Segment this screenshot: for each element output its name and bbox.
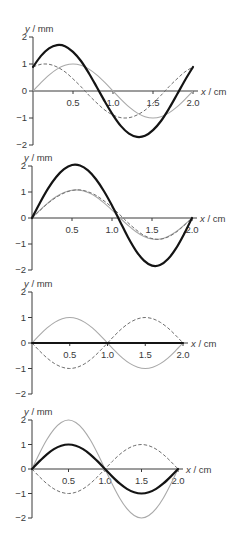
superposition-figure: 210−1−20.51.01.52.0y / mmx / cm 210−1−20…	[0, 0, 239, 540]
x-axis-label: x / cm	[190, 338, 216, 349]
x-axis-label: x / cm	[185, 464, 211, 475]
y-tick-label: −2	[16, 139, 27, 150]
graph-panel-1: 210−1−20.51.01.52.0y / mmx / cm	[16, 23, 226, 150]
x-axis-label: x / cm	[200, 86, 226, 97]
y-axis-label: y / mm	[24, 23, 54, 34]
x-tick-label: 1.0	[101, 349, 114, 360]
x-tick-label: 0.5	[63, 349, 76, 360]
y-tick-label: 0	[22, 85, 27, 96]
x-tick-label: 0.5	[62, 475, 75, 486]
graph-panel-2: 210−1−20.51.01.52.0y / mmx / cm	[15, 152, 225, 275]
y-tick-label: −2	[15, 264, 26, 275]
x-tick-label: 1.0	[105, 224, 118, 235]
x-tick-label: 1.0	[98, 475, 111, 486]
x-axis-label: x / cm	[199, 213, 225, 224]
x-tick-label: 1.5	[139, 349, 152, 360]
y-tick-label: 1	[21, 439, 26, 450]
x-tick-label: 2.0	[176, 349, 189, 360]
y-tick-label: 1	[21, 312, 26, 323]
y-tick-label: 0	[21, 212, 26, 223]
y-tick-label: −1	[15, 488, 26, 499]
y-tick-label: −2	[15, 388, 26, 399]
x-tick-label: 0.5	[65, 224, 78, 235]
y-axis-label: y / mm	[23, 278, 53, 289]
series-thick-line	[32, 165, 192, 266]
y-tick-label: 0	[21, 337, 26, 348]
y-axis-label: y / mm	[23, 152, 53, 163]
x-tick-label: 2.0	[186, 97, 199, 108]
y-tick-label: −2	[15, 512, 26, 523]
graph-panel-3: 210−1−20.51.01.52.0y / mmx / cm	[15, 278, 216, 399]
y-tick-label: 0	[21, 463, 26, 474]
y-tick-label: −1	[16, 112, 27, 123]
x-tick-label: 0.5	[66, 97, 79, 108]
y-tick-label: −1	[15, 238, 26, 249]
graph-panel-4: 210−1−20.51.01.52.0y / mmx / cm	[15, 406, 211, 523]
x-tick-label: 2.0	[171, 475, 184, 486]
y-axis-label: y / mm	[23, 406, 53, 417]
x-tick-label: 1.5	[135, 475, 148, 486]
y-tick-label: 1	[22, 58, 27, 69]
x-tick-label: 1.5	[145, 224, 158, 235]
y-tick-label: −1	[15, 363, 26, 374]
y-tick-label: 1	[21, 186, 26, 197]
